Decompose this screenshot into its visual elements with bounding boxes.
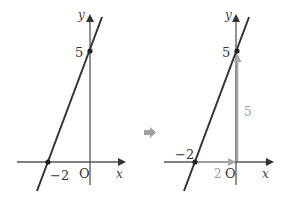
left-y-axis-label: y — [77, 8, 85, 22]
right-line — [184, 17, 249, 191]
left-graph: y x O 5 −2 — [17, 8, 124, 191]
right-graph: y x O 5 −2 2 5 — [164, 8, 272, 191]
left-x-intercept-label: −2 — [50, 168, 69, 183]
right-x-intercept-label: −2 — [175, 147, 194, 162]
right-y-axis-label: y — [224, 8, 232, 22]
right-arrow-icon — [144, 127, 156, 138]
right-origin-label: O — [225, 166, 236, 181]
left-x-axis-label: x — [116, 167, 123, 181]
diagram-canvas: y x O 5 −2 y x O 5 −2 2 5 — [0, 0, 288, 200]
left-x-intercept-point — [45, 159, 50, 164]
left-y-intercept-label: 5 — [75, 45, 83, 60]
right-y-intercept-label: 5 — [222, 45, 230, 60]
right-y-intercept-point — [234, 48, 239, 53]
horizontal-distance-label: 2 — [214, 167, 222, 181]
vertical-distance-label: 5 — [244, 105, 252, 119]
right-x-axis-label: x — [262, 167, 269, 181]
left-origin-label: O — [79, 166, 90, 181]
left-y-intercept-point — [87, 48, 92, 53]
left-line — [37, 17, 102, 191]
